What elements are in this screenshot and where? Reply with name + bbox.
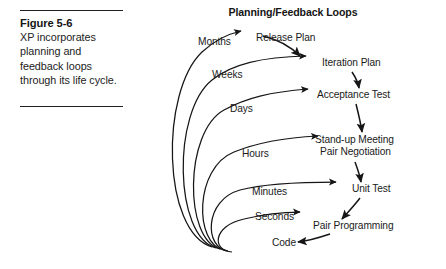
figure-caption-block: Figure 5-6 XP incorporates planning and … [20, 10, 123, 87]
timescale-label-minutes: Minutes [252, 186, 287, 197]
activity-label-release-plan: Release Plan [256, 32, 315, 43]
figure-description: XP incorporates planning and feedback lo… [20, 30, 123, 87]
timescale-label-days: Days [230, 103, 253, 114]
timescale-label-weeks: Weeks [212, 69, 242, 80]
diagram-canvas: Months Weeks Days Hours Minutes Seconds … [140, 0, 446, 269]
arc-months [172, 31, 241, 247]
timescale-label-months: Months [198, 36, 231, 47]
timescale-label-code: Code [272, 237, 296, 248]
caption-body: Figure 5-6 XP incorporates planning and … [20, 11, 123, 87]
timescale-label-seconds: Seconds [255, 211, 294, 222]
link-unittest-to-pairprog [342, 198, 360, 219]
timescale-label-hours: Hours [242, 148, 269, 159]
figure-number-label: Figure 5-6 [20, 16, 123, 30]
link-pairprog-to-code [298, 234, 330, 242]
planning-feedback-loops-diagram: Planning/Feedback Loops [140, 0, 446, 269]
activity-label-iteration-plan: Iteration Plan [322, 57, 381, 68]
activity-label-acceptance-test: Acceptance Test [317, 89, 390, 100]
caption-bottom-rule [20, 106, 123, 107]
activity-labels: Release Plan Iteration Plan Acceptance T… [256, 32, 394, 231]
link-acceptance-to-standup [356, 104, 362, 132]
activity-label-pair-programming: Pair Programming [313, 220, 394, 231]
activity-label-standup-meeting: Stand-up Meeting [315, 134, 394, 145]
activity-label-unit-test: Unit Test [352, 183, 391, 194]
link-negotiation-to-unittest [355, 162, 361, 182]
activity-label-pair-negotiation: Pair Negotiation [320, 146, 391, 157]
figure-page: Figure 5-6 XP incorporates planning and … [0, 0, 446, 269]
link-iteration-to-acceptance [352, 72, 359, 88]
